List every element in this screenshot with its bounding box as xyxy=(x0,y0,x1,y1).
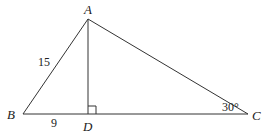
vertex-label-a: A xyxy=(83,2,92,17)
vertex-label-c: C xyxy=(252,108,261,123)
triangle-diagram: A B C D 15 9 30° xyxy=(0,0,267,137)
segment-ab xyxy=(23,19,88,114)
right-angle-marker xyxy=(88,106,96,114)
vertex-label-b: B xyxy=(7,107,15,122)
length-label-ab: 15 xyxy=(38,55,50,69)
angle-label-c: 30° xyxy=(222,100,239,114)
vertex-label-d: D xyxy=(82,119,93,134)
length-label-bd: 9 xyxy=(51,116,57,130)
